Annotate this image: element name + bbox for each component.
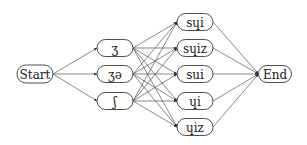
node-label: sɥi xyxy=(186,16,204,30)
edge-m2-to-r0 xyxy=(133,22,177,101)
node-label: ɥi xyxy=(189,95,201,109)
edge-m0-to-r0 xyxy=(133,22,177,48)
edge-start-to-m2 xyxy=(53,74,97,101)
node-zh-schwa: ʒə xyxy=(97,66,133,83)
edge-r4-to-end xyxy=(213,74,259,127)
node-sh: ʃ xyxy=(97,93,133,110)
edge-r3-to-end xyxy=(213,74,259,101)
node-label: ɥiz xyxy=(186,121,204,135)
edge-m1-to-r4 xyxy=(133,74,177,127)
node-label: Start xyxy=(20,68,51,82)
node-sui-turned-h: sɥi xyxy=(177,14,213,31)
node-label: ʒ xyxy=(112,42,119,56)
node-suiz-turned-h: sɥiz xyxy=(177,40,213,57)
edge-start-to-m0 xyxy=(53,48,97,74)
node-label: sui xyxy=(186,68,204,82)
nodes-layer: Start ʒ ʒə ʃ sɥi sɥiz sui ɥi xyxy=(17,14,292,136)
node-label: sɥiz xyxy=(183,42,207,56)
node-label: ʒə xyxy=(108,68,122,82)
node-uiz-turned-h: ɥiz xyxy=(177,119,213,136)
node-start: Start xyxy=(17,65,53,83)
edge-r1-to-end xyxy=(213,48,259,74)
node-label: End xyxy=(263,68,287,82)
node-zh: ʒ xyxy=(97,40,133,57)
lattice-diagram: Start ʒ ʒə ʃ sɥi sɥiz sui ɥi xyxy=(0,0,307,145)
edges-layer xyxy=(53,22,259,127)
node-sui: sui xyxy=(177,66,213,83)
node-end: End xyxy=(259,66,292,83)
edge-r0-to-end xyxy=(213,22,259,74)
edge-m2-to-r4 xyxy=(133,101,177,127)
node-ui-turned-h: ɥi xyxy=(177,93,213,110)
